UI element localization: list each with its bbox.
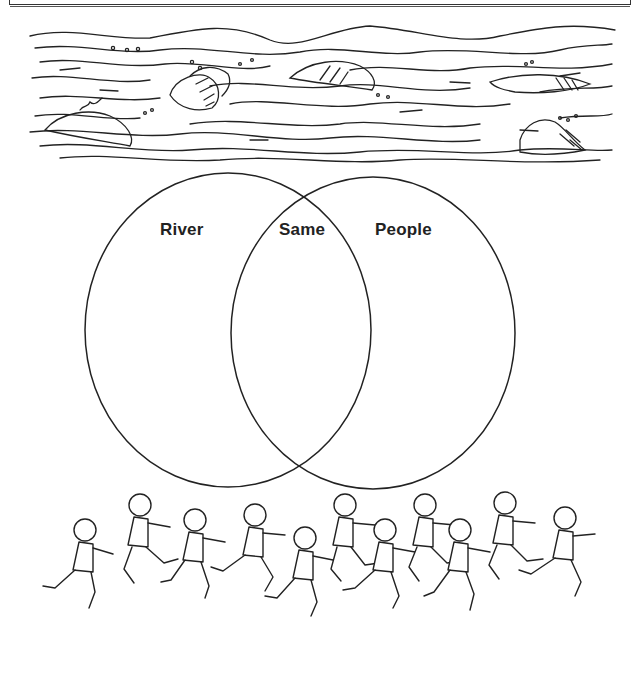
running-children-illustration [0,0,633,675]
